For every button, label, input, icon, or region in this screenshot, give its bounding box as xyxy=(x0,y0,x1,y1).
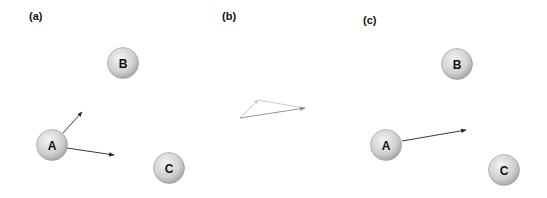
vector-sum-arrow xyxy=(240,108,305,118)
panel-b-label: (b) xyxy=(222,10,236,22)
node-a-label: A xyxy=(48,139,57,153)
panel-b: (b) xyxy=(222,10,305,118)
node-a: A xyxy=(371,130,402,161)
panel-a: (a) B A C xyxy=(29,10,185,184)
node-b: B xyxy=(108,48,139,79)
node-b-label: B xyxy=(453,58,462,72)
node-b-label: B xyxy=(119,57,128,71)
node-c: C xyxy=(489,155,520,186)
arrow-a-to-b xyxy=(63,112,82,133)
arrow-resultant xyxy=(402,130,466,141)
node-c: C xyxy=(154,153,185,184)
node-a: A xyxy=(37,130,68,161)
diagram-canvas: (a) B A C (b) (c) B A xyxy=(0,0,547,198)
node-b: B xyxy=(442,49,473,80)
panel-a-label: (a) xyxy=(29,10,43,22)
panel-c-label: (c) xyxy=(363,14,377,26)
node-a-label: A xyxy=(382,139,391,153)
arrow-a-to-c xyxy=(67,148,114,155)
node-c-label: C xyxy=(165,162,174,176)
panel-c: (c) B A C xyxy=(363,14,520,186)
vector-ac-faint xyxy=(258,100,304,108)
node-c-label: C xyxy=(500,164,509,178)
